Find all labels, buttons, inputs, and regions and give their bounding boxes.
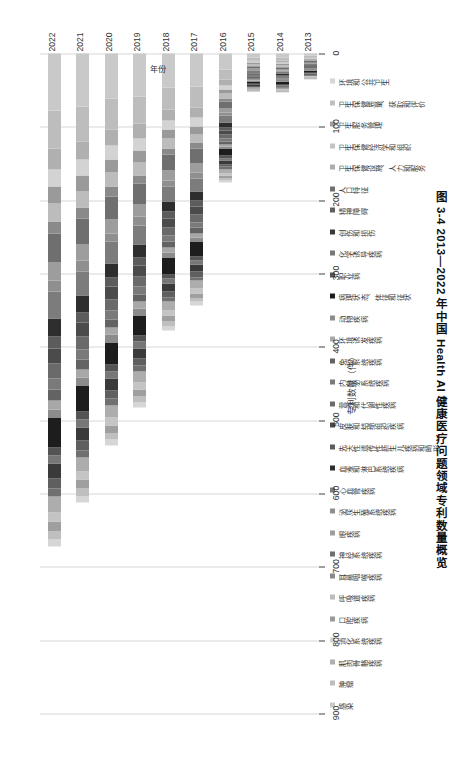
bar-segment[interactable]	[162, 227, 175, 235]
bar-segment[interactable]	[76, 218, 89, 244]
bar-segment[interactable]	[76, 175, 89, 190]
bar-segment[interactable]	[76, 141, 89, 159]
bar-segment[interactable]	[133, 308, 146, 315]
bar-segment[interactable]	[190, 277, 203, 281]
bar-segment[interactable]	[190, 172, 203, 178]
stacked-bar[interactable]	[105, 53, 118, 445]
bar-segment[interactable]	[190, 163, 203, 172]
bar-segment[interactable]	[162, 170, 175, 180]
bar-segment[interactable]	[219, 69, 232, 79]
bar-segment[interactable]	[162, 87, 175, 109]
bar-segment[interactable]	[133, 335, 146, 341]
bar-segment[interactable]	[48, 464, 61, 479]
bar-segment[interactable]	[162, 235, 175, 242]
bar-segment[interactable]	[48, 478, 61, 488]
stacked-bar[interactable]	[76, 53, 89, 502]
bar-segment[interactable]	[133, 257, 146, 265]
bar-segment[interactable]	[48, 417, 61, 446]
bar-segment[interactable]	[219, 101, 232, 108]
bar-segment[interactable]	[162, 274, 175, 278]
bar-segment[interactable]	[162, 218, 175, 227]
bar-segment[interactable]	[162, 297, 175, 301]
bar-segment[interactable]	[133, 315, 146, 336]
stacked-bar[interactable]	[304, 53, 317, 79]
bar-segment[interactable]	[190, 264, 203, 271]
bar-segment[interactable]	[162, 241, 175, 247]
bar-segment[interactable]	[76, 271, 89, 295]
bar-segment[interactable]	[133, 371, 146, 382]
bar-segment[interactable]	[190, 86, 203, 107]
bar-segment[interactable]	[76, 349, 89, 359]
bar-segment[interactable]	[105, 145, 118, 159]
bar-segment[interactable]	[219, 93, 232, 97]
bar-segment[interactable]	[190, 148, 203, 163]
bar-segment[interactable]	[105, 277, 118, 286]
bar-segment[interactable]	[76, 53, 89, 106]
bar-segment[interactable]	[48, 409, 61, 418]
bar-segment[interactable]	[48, 539, 61, 546]
bar-segment[interactable]	[76, 295, 89, 312]
bar-segment[interactable]	[190, 241, 203, 256]
bar-segment[interactable]	[162, 258, 175, 274]
bar-segment[interactable]	[190, 227, 203, 232]
bar-segment[interactable]	[219, 160, 232, 164]
stacked-bar[interactable]	[133, 53, 146, 407]
bar-segment[interactable]	[133, 294, 146, 301]
bar-segment[interactable]	[76, 336, 89, 349]
bar-segment[interactable]	[162, 247, 175, 252]
bar-segment[interactable]	[76, 471, 89, 479]
bar-segment[interactable]	[105, 159, 118, 172]
bar-segment[interactable]	[162, 148, 175, 155]
bar-segment[interactable]	[219, 108, 232, 112]
bar-segment[interactable]	[190, 260, 203, 264]
bar-segment[interactable]	[48, 233, 61, 262]
bar-segment[interactable]	[133, 244, 146, 257]
bar-segment[interactable]	[48, 378, 61, 390]
bar-segment[interactable]	[190, 126, 203, 134]
bar-segment[interactable]	[133, 348, 146, 358]
bar-segment[interactable]	[162, 201, 175, 211]
bar-segment[interactable]	[133, 358, 146, 365]
bar-segment[interactable]	[48, 447, 61, 455]
bar-segment[interactable]	[76, 159, 89, 175]
bar-segment[interactable]	[162, 186, 175, 201]
bar-segment[interactable]	[105, 233, 118, 242]
bar-segment[interactable]	[48, 521, 61, 531]
bar-segment[interactable]	[76, 488, 89, 495]
bar-segment[interactable]	[105, 378, 118, 390]
bar-segment[interactable]	[76, 260, 89, 270]
bar-segment[interactable]	[162, 211, 175, 218]
bar-segment[interactable]	[105, 439, 118, 445]
bar-segment[interactable]	[162, 321, 175, 325]
bar-segment[interactable]	[105, 327, 118, 334]
bar-segment[interactable]	[76, 244, 89, 260]
bar-segment[interactable]	[76, 479, 89, 489]
bar-segment[interactable]	[133, 276, 146, 286]
bar-segment[interactable]	[219, 79, 232, 84]
bar-segment[interactable]	[162, 154, 175, 170]
bar-segment[interactable]	[162, 301, 175, 310]
bar-segment[interactable]	[162, 138, 175, 148]
bar-segment[interactable]	[105, 299, 118, 311]
bar-segment[interactable]	[105, 365, 118, 372]
bar-segment[interactable]	[190, 256, 203, 260]
bar-segment[interactable]	[105, 172, 118, 186]
bar-segment[interactable]	[133, 365, 146, 371]
bar-segment[interactable]	[133, 53, 146, 96]
bar-segment[interactable]	[247, 53, 260, 57]
bar-segment[interactable]	[190, 107, 203, 117]
bar-segment[interactable]	[48, 148, 61, 169]
bar-segment[interactable]	[133, 396, 146, 402]
bar-segment[interactable]	[133, 138, 146, 150]
bar-segment[interactable]	[133, 216, 146, 224]
bar-segment[interactable]	[105, 371, 118, 378]
bar-segment[interactable]	[162, 129, 175, 138]
bar-segment[interactable]	[133, 265, 146, 276]
bar-segment[interactable]	[133, 96, 146, 124]
bar-segment[interactable]	[48, 531, 61, 539]
bar-segment[interactable]	[48, 318, 61, 336]
bar-segment[interactable]	[48, 262, 61, 280]
bar-segment[interactable]	[105, 98, 118, 129]
bar-segment[interactable]	[276, 53, 289, 57]
bar-segment[interactable]	[162, 326, 175, 330]
